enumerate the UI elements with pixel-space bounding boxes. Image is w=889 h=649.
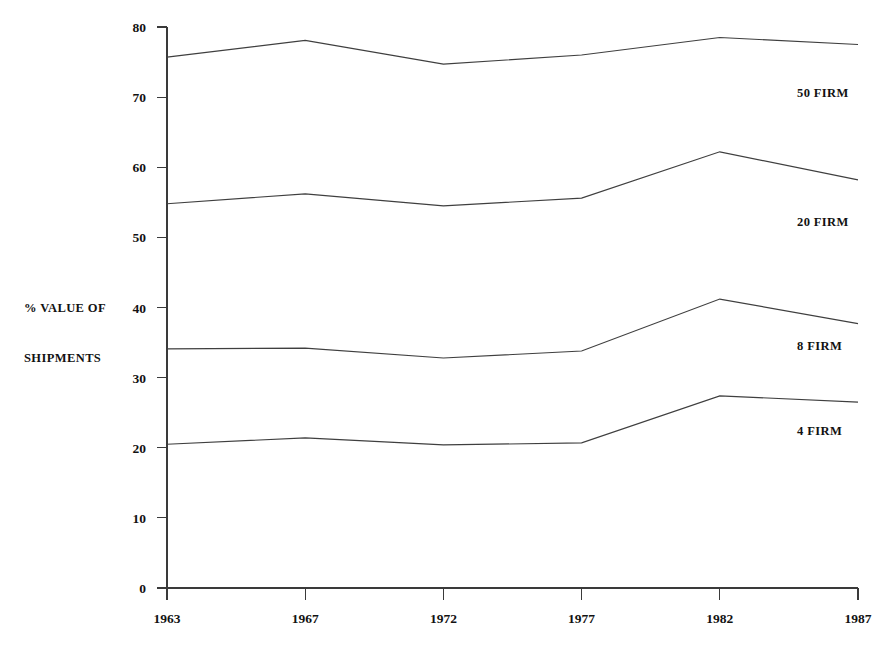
series-lines bbox=[167, 38, 858, 445]
series-label-8-firm: 8 FIRM bbox=[797, 339, 842, 353]
series-label-4-firm: 4 FIRM bbox=[797, 424, 842, 438]
y-tick-label-10: 10 bbox=[133, 511, 147, 526]
x-tick-label-1963: 1963 bbox=[154, 611, 181, 626]
y-axis-ticks: 0 10 20 30 40 50 60 70 80 bbox=[133, 20, 168, 596]
series-line-50-firm bbox=[167, 38, 858, 65]
series-label-50-firm: 50 FIRM bbox=[797, 86, 849, 100]
y-tick-label-20: 20 bbox=[133, 441, 147, 456]
y-tick-label-60: 60 bbox=[133, 160, 147, 175]
y-tick-label-40: 40 bbox=[133, 301, 147, 316]
y-tick-label-80: 80 bbox=[133, 20, 147, 35]
y-tick-label-70: 70 bbox=[133, 90, 147, 105]
x-tick-label-1982: 1982 bbox=[706, 611, 733, 626]
series-line-4-firm bbox=[167, 396, 858, 445]
y-tick-label-50: 50 bbox=[133, 230, 147, 245]
series-labels: 50 FIRM 20 FIRM 8 FIRM 4 FIRM bbox=[797, 86, 849, 438]
series-line-20-firm bbox=[167, 152, 858, 206]
line-chart: % VALUE OF SHIPMENTS 0 10 20 30 40 50 60… bbox=[0, 0, 889, 649]
series-label-20-firm: 20 FIRM bbox=[797, 215, 849, 229]
y-axis-title-line-2: SHIPMENTS bbox=[24, 351, 101, 365]
y-tick-label-0: 0 bbox=[139, 581, 146, 596]
chart-container: % VALUE OF SHIPMENTS 0 10 20 30 40 50 60… bbox=[0, 0, 889, 649]
y-axis-title-line-1: % VALUE OF bbox=[24, 301, 106, 315]
x-axis-ticks: 1963 1967 1972 1977 1982 1987 bbox=[154, 588, 872, 626]
series-line-8-firm bbox=[167, 299, 858, 358]
x-tick-label-1987: 1987 bbox=[845, 611, 872, 626]
x-tick-label-1972: 1972 bbox=[430, 611, 457, 626]
x-tick-label-1977: 1977 bbox=[568, 611, 595, 626]
y-tick-label-30: 30 bbox=[133, 371, 147, 386]
x-tick-label-1967: 1967 bbox=[292, 611, 319, 626]
